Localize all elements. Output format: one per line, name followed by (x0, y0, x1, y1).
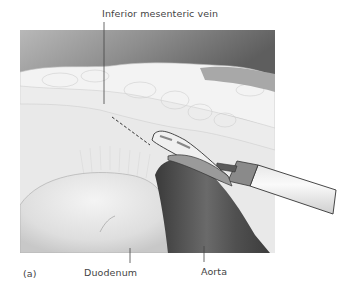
label-aorta: Aorta (201, 266, 227, 277)
panel-label: (a) (23, 268, 37, 279)
surgical-illustration: Inferior mesenteric vein Duodenum Aorta … (0, 0, 354, 290)
label-duodenum: Duodenum (84, 267, 137, 278)
label-inferior-mesenteric-vein: Inferior mesenteric vein (102, 8, 218, 19)
anatomy-scene (20, 30, 275, 253)
illustration-canvas (0, 0, 354, 290)
